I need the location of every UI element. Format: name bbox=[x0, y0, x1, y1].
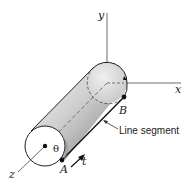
tangent-label: t bbox=[82, 155, 87, 168]
z-axis-label: z bbox=[8, 168, 15, 181]
theta-label: θ bbox=[53, 143, 59, 154]
cylinder-diagram: y x z A B θ t Line segment bbox=[0, 0, 185, 187]
point-b-dot bbox=[122, 95, 127, 100]
y-axis-label: y bbox=[97, 9, 105, 22]
point-a-label: A bbox=[59, 163, 68, 176]
diagram-svg: y x z A B θ t Line segment bbox=[0, 0, 185, 187]
front-center-dot bbox=[43, 144, 47, 148]
point-a-dot bbox=[60, 158, 65, 163]
line-segment-label: Line segment bbox=[119, 125, 179, 136]
annotation-arrowhead-icon bbox=[103, 120, 108, 124]
point-b-label: B bbox=[118, 104, 127, 117]
x-axis-label: x bbox=[175, 83, 182, 96]
